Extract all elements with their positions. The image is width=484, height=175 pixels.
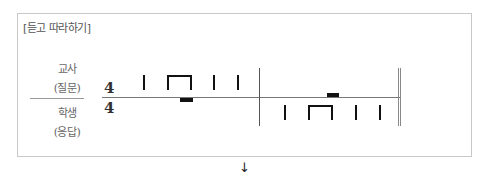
time-signature-denominator: 4 (104, 99, 114, 117)
role-student-name: 학생 (37, 104, 97, 123)
eighth-pair-icon (308, 105, 333, 120)
role-divider (30, 98, 84, 99)
whole-rest-icon (180, 98, 193, 102)
final-double-barline (398, 68, 401, 126)
quarter-note-icon (143, 75, 145, 90)
quarter-note-icon (355, 105, 357, 120)
role-student-desc: (응답) (37, 123, 97, 142)
role-teacher-name: 교사 (37, 60, 97, 79)
quarter-note-icon (284, 105, 286, 120)
role-student: 학생 (응답) (37, 104, 97, 142)
rhythm-staff-line (102, 97, 400, 98)
quarter-note-icon (237, 75, 239, 90)
down-arrow-icon: ↓ (239, 160, 250, 175)
role-teacher-desc: (질문) (37, 79, 97, 98)
quarter-note-icon (213, 75, 215, 90)
barline (259, 68, 260, 126)
eighth-pair-icon (167, 75, 192, 90)
role-teacher: 교사 (질문) (37, 60, 97, 98)
whole-rest-icon (327, 93, 339, 97)
time-signature-numerator: 4 (104, 79, 114, 97)
exercise-title: [듣고 따라하기] (23, 19, 91, 35)
quarter-note-icon (379, 105, 381, 120)
